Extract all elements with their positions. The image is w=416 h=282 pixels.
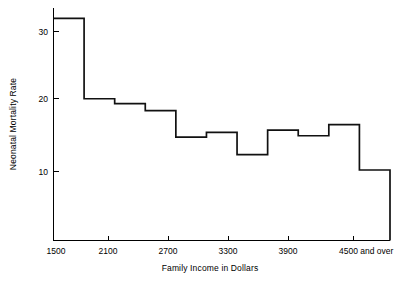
y-axis-ticks xyxy=(54,32,59,172)
y-tick-label-30: 30 xyxy=(39,27,49,37)
x-tick-label-4500-and-over: 4500 and over xyxy=(339,246,394,256)
chart-figure: 30 20 10 1500 2100 2700 3300 3900 4500 a… xyxy=(0,0,416,282)
y-axis-title: Neonatal Mortality Rate xyxy=(8,78,18,170)
x-tick-label-2700: 2700 xyxy=(159,246,178,256)
x-tick-label-1500: 1500 xyxy=(47,246,66,256)
y-tick-label-10: 10 xyxy=(39,167,49,177)
step-line-series xyxy=(54,18,391,240)
neonatal-mortality-step-chart: 30 20 10 1500 2100 2700 3300 3900 4500 a… xyxy=(0,0,416,282)
x-axis-title: Family Income in Dollars xyxy=(162,263,259,273)
x-tick-label-3300: 3300 xyxy=(219,246,238,256)
x-tick-label-2100: 2100 xyxy=(99,246,118,256)
x-axis-ticks xyxy=(109,236,354,241)
y-tick-label-20: 20 xyxy=(39,94,49,104)
x-tick-label-3900: 3900 xyxy=(279,246,298,256)
